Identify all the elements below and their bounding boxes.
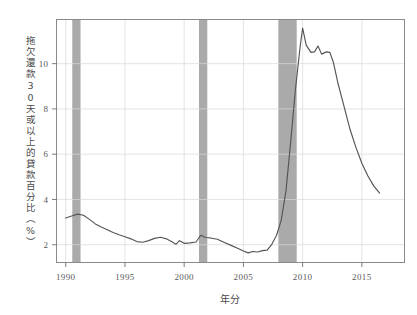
x-tick-label: 2000 [174, 272, 194, 282]
x-tick-label: 2010 [293, 272, 313, 282]
recession-band-recession-2001 [199, 20, 207, 263]
x-tick-label: 2015 [352, 272, 372, 282]
chart-plot-svg: 199019952000200520102015 246810 年分 [0, 0, 417, 315]
x-tick-labels-group: 199019952000200520102015 [56, 272, 372, 282]
x-axis-title: 年分 [220, 293, 240, 305]
y-tick-label: 10 [39, 59, 49, 69]
chart-figure: 拖欠還款30天或以上的貸款百分比（%） 19901995200020052010… [0, 0, 417, 315]
y-tick-label: 6 [44, 149, 49, 159]
plot-frame [57, 20, 405, 263]
recession-band-recession-2008 [278, 20, 296, 263]
x-tick-label: 2005 [234, 272, 254, 282]
x-tick-label: 1990 [56, 272, 76, 282]
y-tick-labels-group: 246810 [39, 59, 49, 250]
y-tick-label: 2 [44, 240, 49, 250]
y-tick-label: 4 [44, 195, 49, 205]
data-series-line [66, 28, 380, 253]
gridlines-group [57, 20, 405, 263]
recession-band-recession-1990 [72, 20, 80, 263]
y-axis-title: 拖欠還款30天或以上的貸款百分比（%） [14, 36, 36, 251]
x-tick-label: 1995 [115, 272, 135, 282]
y-tick-label: 8 [44, 104, 49, 114]
